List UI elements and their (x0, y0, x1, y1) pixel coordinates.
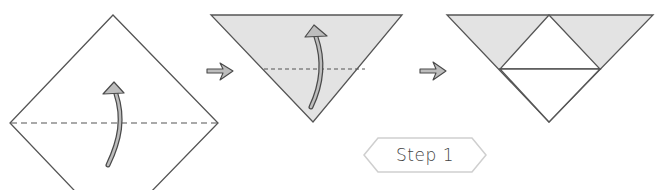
figure-folded-triangle (211, 15, 402, 122)
right-arrow-icon (420, 62, 446, 80)
paper-diamond (10, 15, 218, 190)
step-label: Step 1 (364, 138, 486, 172)
lower-white-triangle (500, 69, 600, 122)
right-arrow-icon (207, 63, 233, 80)
origami-diagram (0, 0, 659, 190)
figure-square-diamond (10, 15, 218, 190)
figure-result-triangle (447, 15, 653, 122)
